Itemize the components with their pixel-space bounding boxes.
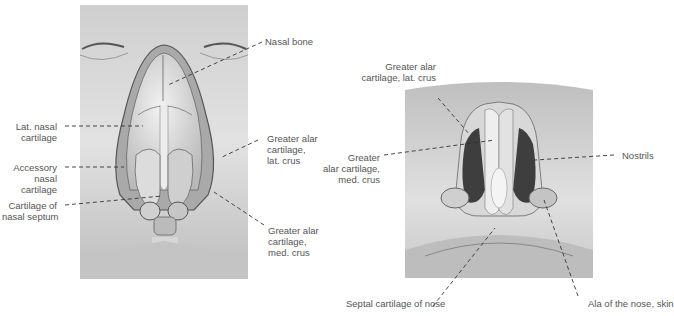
label-nasal-bone: Nasal bone	[265, 36, 313, 47]
anterior-nose-illustration	[80, 5, 248, 279]
label-accessory-nasal-cartilage: Accessory nasal cartilage	[8, 162, 57, 195]
inferior-nose-illustration	[405, 80, 593, 278]
label-cartilage-nasal-septum: Cartilage of nasal septum	[2, 200, 57, 222]
label-nostrils: Nostrils	[622, 150, 654, 161]
label-greater-alar-lat-crus-inferior: Greater alar cartilage, lat. crus	[360, 61, 436, 83]
label-greater-alar-med-crus: Greater alar cartilage, med. crus	[268, 225, 319, 258]
label-septal-cartilage: Septal cartilage of nose	[346, 298, 445, 309]
label-lat-nasal-cartilage: Lat. nasal cartilage	[14, 121, 57, 143]
label-greater-alar-med-crus-inferior: Greater alar cartilage, med. crus	[310, 152, 380, 185]
label-ala-of-nose: Ala of the nose, skin	[588, 298, 674, 309]
